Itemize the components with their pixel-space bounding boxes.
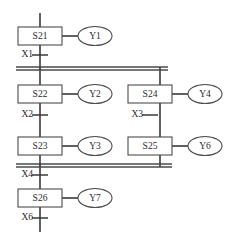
action-y1[interactable]: Y1 — [78, 27, 112, 46]
transition-x4[interactable]: X4 — [21, 169, 48, 179]
transition-x6[interactable]: X6 — [21, 212, 48, 222]
transition-label: X4 — [21, 169, 33, 179]
step-s26[interactable]: S26 — [18, 189, 62, 207]
transition-x3[interactable]: X3 — [131, 109, 158, 119]
step-s22[interactable]: S22 — [18, 85, 62, 103]
action-layer: Y1Y2Y3Y4Y6Y7 — [78, 27, 222, 208]
step-s21[interactable]: S21 — [18, 27, 62, 45]
action-y3[interactable]: Y3 — [78, 137, 112, 156]
action-label: Y6 — [199, 141, 211, 151]
transition-label: X2 — [21, 109, 33, 119]
transition-label: X6 — [21, 212, 33, 222]
action-y7[interactable]: Y7 — [78, 189, 112, 208]
action-label: Y7 — [89, 193, 101, 203]
transition-x2[interactable]: X2 — [21, 109, 48, 119]
action-label: Y4 — [199, 89, 211, 99]
sfc-diagram: X1X2X3X4X6 S21S22S23S24S25S26 Y1Y2Y3Y4Y6… — [0, 0, 234, 241]
transition-label: X3 — [131, 109, 143, 119]
step-label: S26 — [33, 193, 48, 203]
step-s24[interactable]: S24 — [128, 85, 172, 103]
parallel-bar-divergence — [16, 67, 168, 70]
step-label: S21 — [33, 31, 48, 41]
action-label: Y2 — [89, 89, 101, 99]
action-y6[interactable]: Y6 — [188, 137, 222, 156]
action-label: Y3 — [89, 141, 101, 151]
step-label: S25 — [143, 141, 158, 151]
action-y2[interactable]: Y2 — [78, 85, 112, 104]
step-label: S22 — [33, 89, 48, 99]
step-s25[interactable]: S25 — [128, 137, 172, 155]
action-label: Y1 — [89, 31, 101, 41]
sfc-diagram-canvas: X1X2X3X4X6 S21S22S23S24S25S26 Y1Y2Y3Y4Y6… — [0, 0, 234, 241]
step-label: S23 — [33, 141, 48, 151]
step-s23[interactable]: S23 — [18, 137, 62, 155]
transition-label: X1 — [21, 49, 33, 59]
step-layer: S21S22S23S24S25S26 — [18, 27, 172, 207]
action-y4[interactable]: Y4 — [188, 85, 222, 104]
step-label: S24 — [143, 89, 158, 99]
transition-x1[interactable]: X1 — [21, 49, 48, 59]
